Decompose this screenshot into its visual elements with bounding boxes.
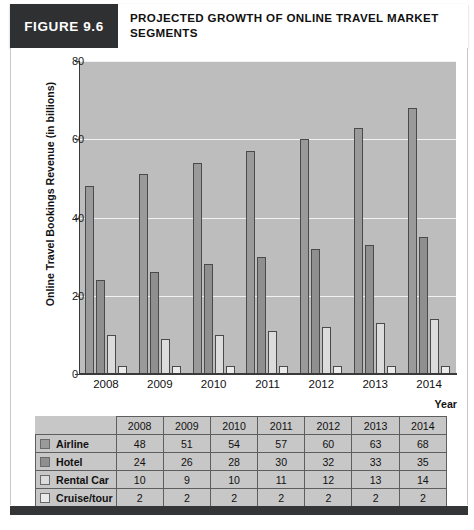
chart: Online Travel Bookings Revenue (in billi… [11,48,469,408]
table-cell: 2 [352,489,399,507]
table-cell: 57 [258,435,305,453]
series-name-label: Cruise/tour [56,492,113,504]
table-column-header: 2008 [116,417,163,435]
table-body: Airline48515457606368Hotel24262830323335… [36,435,447,507]
legend-swatch-icon [40,439,50,449]
bar [246,151,255,374]
y-axis-title: Online Travel Bookings Revenue (in billi… [44,69,56,319]
bar-group [348,61,402,374]
table-row: Airline48515457606368 [36,435,447,453]
x-axis-tick-label: 2012 [309,378,335,390]
table-cell: 35 [399,453,446,471]
bar [300,139,309,374]
bar-group [187,61,241,374]
bar [322,327,331,374]
table-cell: 9 [163,471,210,489]
bar [193,163,202,374]
figure-title: PROJECTED GROWTH OF ONLINE TRAVEL MARKET… [118,4,468,48]
table-cell: 13 [352,471,399,489]
table-row-label: Rental Car [36,471,117,489]
bar-group [402,61,456,374]
figure-header: FIGURE 9.6 PROJECTED GROWTH OF ONLINE TR… [10,4,468,48]
bar [107,335,116,374]
table-cell: 60 [305,435,352,453]
table-cell: 10 [116,471,163,489]
figure-bottom-bar [10,506,468,515]
series-name-label: Hotel [56,456,82,468]
legend-swatch-icon [40,493,50,503]
figure-container: FIGURE 9.6 PROJECTED GROWTH OF ONLINE TR… [0,0,474,530]
bar [215,335,224,374]
bar [268,331,277,374]
bar-group [241,61,295,374]
table-cell: 24 [116,453,163,471]
table-column-header: 2012 [305,417,352,435]
x-axis-tick-label: 2008 [93,378,119,390]
table-cell: 32 [305,453,352,471]
bar-group [79,61,133,374]
table-cell: 12 [305,471,352,489]
table-cell: 63 [352,435,399,453]
x-axis-title: Year [435,398,457,410]
y-axis-tick-mark [75,139,79,140]
table-cell: 2 [116,489,163,507]
table-cell: 26 [163,453,210,471]
table-cell: 68 [399,435,446,453]
legend-swatch-icon [40,475,50,485]
table-cell: 2 [258,489,305,507]
x-axis-tick-label: 2010 [201,378,227,390]
bar [430,319,439,374]
table-row: Rental Car1091011121314 [36,471,447,489]
table-row-label: Hotel [36,453,117,471]
table-column-header: 2014 [399,417,446,435]
bar [419,237,428,374]
table-corner-cell [36,417,117,435]
table-row: Cruise/tour2222222 [36,489,447,507]
bar [311,249,320,374]
table-cell: 14 [399,471,446,489]
bar [354,128,363,374]
bar [257,257,266,374]
bar [96,280,105,374]
y-axis-tick-mark [75,296,79,297]
legend-swatch-icon [40,457,50,467]
series-name-label: Airline [56,438,89,450]
bar [85,186,94,374]
table-column-header: 2011 [258,417,305,435]
x-axis-tick-label: 2014 [416,378,442,390]
table-cell: 2 [210,489,257,507]
table-cell: 10 [210,471,257,489]
table-column-header: 2009 [163,417,210,435]
table-cell: 2 [399,489,446,507]
table-cell: 2 [163,489,210,507]
table-cell: 48 [116,435,163,453]
table-header-row: 2008200920102011201220132014 [36,417,447,435]
table-column-header: 2013 [352,417,399,435]
table-row-label: Cruise/tour [36,489,117,507]
bar [376,323,385,374]
bar [365,245,374,374]
bar [161,339,170,374]
series-name-label: Rental Car [56,474,109,486]
table-cell: 33 [352,453,399,471]
plot-area [79,61,456,374]
plot-inner [79,61,456,374]
table-cell: 54 [210,435,257,453]
x-axis-tick-label: 2011 [255,378,280,390]
table-row: Hotel24262830323335 [36,453,447,471]
table-column-header: 2010 [210,417,257,435]
bar-group [133,61,187,374]
bar [408,108,417,374]
table-cell: 51 [163,435,210,453]
bar [139,174,148,374]
table-cell: 28 [210,453,257,471]
data-table: 2008200920102011201220132014 Airline4851… [35,416,447,507]
table-head: 2008200920102011201220132014 [36,417,447,435]
table-cell: 2 [305,489,352,507]
bar-group [294,61,348,374]
figure-body: Online Travel Bookings Revenue (in billi… [10,48,468,505]
y-axis-tick-mark [75,218,79,219]
table-cell: 30 [258,453,305,471]
x-axis-tick-label: 2013 [362,378,388,390]
x-axis-line [79,373,457,375]
